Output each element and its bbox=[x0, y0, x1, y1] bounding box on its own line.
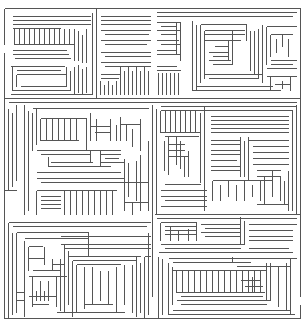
maze bbox=[0, 0, 304, 326]
maze-canvas bbox=[0, 0, 304, 326]
